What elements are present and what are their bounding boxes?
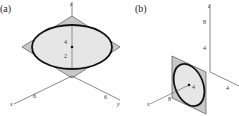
z-axis-label: z: [207, 3, 211, 9]
x-axis-label: x: [9, 101, 13, 107]
y-tick-4: 4: [226, 85, 229, 91]
diagram-canvas: (a) z 4 2 x 6 6 y (b) z 8 4 4: [0, 0, 239, 116]
z-tick-4: 4: [64, 39, 67, 45]
x-axis-label: x: [146, 101, 150, 107]
y-axis: [72, 76, 120, 100]
panel-a-label: (a): [0, 3, 11, 15]
center-point: [71, 46, 74, 49]
x-tick-6: 6: [33, 93, 36, 99]
y-axis-label: y: [116, 101, 120, 107]
center-label: 4: [192, 84, 195, 90]
y-axis: [210, 72, 239, 86]
z-tick-2: 2: [64, 53, 67, 59]
x-tick-8: 8: [168, 96, 171, 102]
x-axis: [14, 76, 72, 104]
z-tick-8: 8: [203, 19, 206, 25]
panel-a: (a) z 4 2 x 6 6 y: [0, 1, 120, 107]
panel-b: (b) z 8 4 4 4 x 8: [135, 3, 239, 114]
panel-b-label: (b): [135, 3, 147, 15]
z-tick-4: 4: [203, 45, 206, 51]
y-tick-6: 6: [104, 94, 107, 100]
z-axis-label: z: [69, 1, 73, 7]
